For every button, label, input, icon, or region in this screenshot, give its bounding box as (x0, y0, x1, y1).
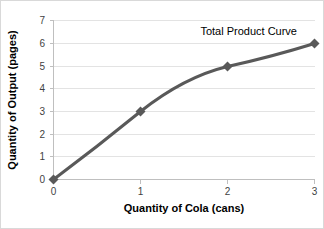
line-chart-canvas: 7 6 5 4 3 2 1 0 0 1 2 3 Total Product Cu… (1, 1, 323, 228)
gridline-group (54, 21, 315, 157)
curve-annotation-label: Total Product Curve (200, 25, 297, 37)
y-tick-label-1: 1 (39, 151, 45, 162)
x-tick-mark-group (54, 180, 315, 184)
x-tick-label-2: 2 (225, 186, 231, 197)
y-tick-label-5: 5 (39, 61, 45, 72)
chart-figure: 7 6 5 4 3 2 1 0 0 1 2 3 Total Product Cu… (0, 0, 324, 229)
y-tick-label-0: 0 (39, 174, 45, 185)
y-tick-label-group: 7 6 5 4 3 2 1 0 (39, 15, 45, 185)
y-tick-label-4: 4 (39, 83, 45, 94)
x-tick-label-3: 3 (312, 186, 318, 197)
x-axis-title: Quantity of Cola (cans) (124, 202, 245, 214)
x-tick-label-0: 0 (51, 186, 57, 197)
y-tick-label-7: 7 (39, 15, 45, 26)
y-tick-label-6: 6 (39, 38, 45, 49)
y-axis-title: Quantity of Output (pages) (6, 30, 18, 170)
x-tick-label-group: 0 1 2 3 (51, 186, 318, 197)
x-tick-label-1: 1 (138, 186, 144, 197)
data-point-marker-3 (310, 39, 320, 49)
y-tick-label-3: 3 (39, 106, 45, 117)
y-tick-label-2: 2 (39, 129, 45, 140)
y-tick-mark-group (50, 21, 54, 180)
data-point-marker-2 (223, 62, 233, 72)
